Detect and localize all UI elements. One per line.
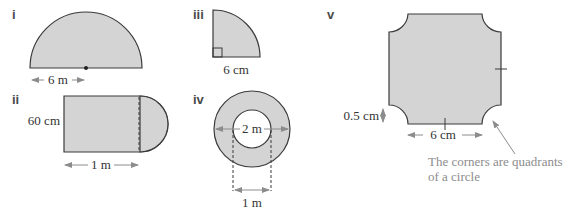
figure-label-i: i	[12, 7, 16, 22]
figure-i: i 6 m	[12, 7, 142, 87]
annotation-pointer-arrow	[493, 121, 515, 154]
inner-diameter-label: 1 m	[242, 195, 262, 210]
figure-label-iv: iv	[193, 92, 205, 107]
center-point	[84, 66, 88, 70]
figure-v: v 0.5 cm 6 cm The corners are quadrants …	[327, 7, 563, 184]
figure-label-ii: ii	[12, 92, 19, 107]
figure-iii: iii 6 cm	[193, 7, 260, 77]
figure-iv: iv 2 m 1 m	[193, 91, 290, 210]
figure-ii: ii 60 cm 1 m	[12, 92, 168, 172]
radius-label: 6 cm	[223, 62, 249, 77]
semicircle-end	[140, 96, 168, 152]
width-label: 1 m	[91, 157, 111, 172]
outer-diameter-label: 2 m	[242, 121, 262, 136]
annotation-line-2: of a circle	[428, 169, 480, 184]
figure-label-v: v	[327, 7, 335, 22]
quadrant-shape	[213, 10, 260, 57]
diagram-canvas: i 6 m ii 60 cm 1 m iii 6 cm iv 2 m	[0, 0, 579, 221]
side-length-label: 6 cm	[430, 127, 456, 142]
height-label: 60 cm	[28, 113, 60, 128]
semicircle-shape	[30, 12, 142, 68]
radius-label: 6 m	[48, 72, 68, 87]
rounded-square-shape	[389, 14, 501, 124]
annotation-line-1: The corners are quadrants	[428, 154, 563, 169]
figure-label-iii: iii	[193, 7, 204, 22]
corner-radius-label: 0.5 cm	[344, 108, 379, 123]
